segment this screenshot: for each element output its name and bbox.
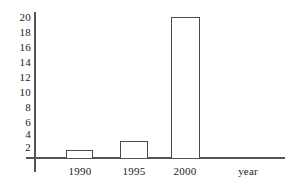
bar-1990 bbox=[66, 150, 93, 158]
x-axis-name: year bbox=[228, 166, 268, 177]
y-axis-tick-labels: 20 18 16 14 12 10 8 6 4 2 bbox=[0, 0, 31, 186]
x-tick-1990-left bbox=[66, 150, 67, 158]
y-tick-label-14: 14 bbox=[9, 57, 31, 68]
y-tick-label-18: 18 bbox=[9, 27, 31, 38]
y-tick-label-4: 4 bbox=[9, 129, 31, 140]
x-tick-2000-left bbox=[171, 148, 172, 158]
y-tick-label-8: 8 bbox=[9, 102, 31, 113]
y-tick-label-6: 6 bbox=[9, 117, 31, 128]
y-tick-label-16: 16 bbox=[9, 42, 31, 53]
x-tick-label-2000: 2000 bbox=[165, 166, 205, 177]
x-tick-2000-right bbox=[199, 148, 200, 158]
x-axis-line bbox=[26, 157, 285, 159]
x-tick-label-1990: 1990 bbox=[60, 166, 100, 177]
x-tick-1995-right bbox=[147, 148, 148, 158]
y-axis-line bbox=[34, 12, 36, 172]
y-tick-label-2: 2 bbox=[9, 142, 31, 153]
y-tick-label-20: 20 bbox=[9, 12, 31, 23]
x-tick-1995-left bbox=[120, 148, 121, 158]
y-tick-label-12: 12 bbox=[9, 72, 31, 83]
bar-1995 bbox=[120, 141, 148, 158]
x-tick-label-1995: 1995 bbox=[114, 166, 154, 177]
bar-2000 bbox=[171, 17, 200, 158]
y-tick-label-10: 10 bbox=[9, 87, 31, 98]
bar-chart: 20 18 16 14 12 10 8 6 4 2 1990 1995 2000… bbox=[0, 0, 291, 186]
